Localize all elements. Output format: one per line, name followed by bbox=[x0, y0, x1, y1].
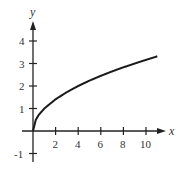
y-tick-label: 2 bbox=[19, 80, 25, 92]
sqrt-curve bbox=[33, 56, 157, 131]
y-tick-label: -1 bbox=[14, 148, 23, 160]
x-axis-arrow-icon bbox=[157, 128, 166, 134]
x-tick-label: 10 bbox=[140, 138, 152, 150]
y-tick-label: 1 bbox=[19, 103, 25, 115]
y-tick-label: 4 bbox=[19, 35, 25, 47]
x-tick-label: 4 bbox=[75, 138, 81, 150]
y-tick-label: 3 bbox=[19, 58, 25, 70]
y-axis-label: y bbox=[29, 5, 36, 19]
x-axis-label: x bbox=[168, 124, 175, 138]
x-tick-label: 8 bbox=[120, 138, 126, 150]
y-axis-arrow-icon bbox=[30, 21, 36, 30]
chart: x y 2 4 6 8 10 4 3 2 1 -1 bbox=[0, 0, 181, 173]
x-tick-label: 6 bbox=[98, 138, 104, 150]
x-tick-label: 2 bbox=[53, 138, 59, 150]
